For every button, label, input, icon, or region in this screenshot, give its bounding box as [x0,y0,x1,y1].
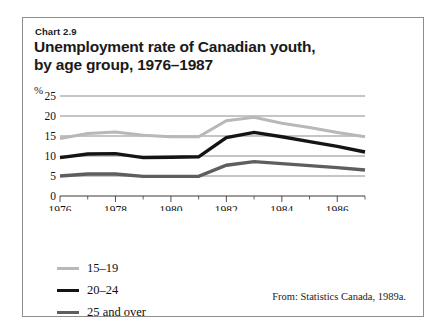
chart-legend: 15–1920–2425 and over [57,257,146,323]
x-tick-label-1982: 1982 [215,204,238,211]
title-line-2: by age group, 1976–1987 [34,56,364,74]
y-tick-20: 20 [45,110,57,122]
y-tick-25: 25 [45,90,57,102]
title-line-1: Unemployment rate of Canadian youth, [34,38,364,56]
legend-label: 15–19 [87,261,118,276]
data-series-group [60,117,365,176]
x-tick-label-1986: 1986 [326,204,349,211]
series-line-25-and-over [60,162,365,177]
plot-area: % 2520151050 197619781980198219841986 [34,84,366,211]
chart-number-label: Chart 2.9 [35,26,77,37]
source-note: From: Statistics Canada, 1989a. [272,291,406,302]
legend-swatch-line [57,289,79,292]
y-axis-tick-labels: 2520151050 [45,90,57,202]
chart-figure-panel: Chart 2.9 Unemployment rate of Canadian … [22,17,424,317]
x-tick-label-1976: 1976 [49,204,72,211]
y-tick-15: 15 [45,130,57,142]
series-line-15–19 [60,117,365,138]
legend-swatch-line [57,267,79,270]
line-chart-svg: 2520151050 197619781980198219841986 [34,84,366,211]
legend-item-2[interactable]: 20–24 [57,279,146,301]
page-title: Unemployment rate of Canadian youth, by … [34,38,364,74]
x-axis-ticks [60,196,365,202]
legend-item-3[interactable]: 25 and over [57,301,146,323]
legend-label: 20–24 [87,283,118,298]
legend-label: 25 and over [87,305,146,320]
x-tick-label-1978: 1978 [104,204,127,211]
y-tick-5: 5 [50,170,56,182]
y-tick-0: 0 [50,190,56,202]
x-axis-tick-labels: 197619781980198219841986 [49,204,350,211]
legend-item-1[interactable]: 15–19 [57,257,146,279]
y-axis-unit-label: % [34,84,43,96]
legend-swatch-line [57,311,79,314]
x-tick-label-1980: 1980 [159,204,182,211]
x-tick-label-1984: 1984 [270,204,293,211]
y-tick-10: 10 [45,150,57,162]
